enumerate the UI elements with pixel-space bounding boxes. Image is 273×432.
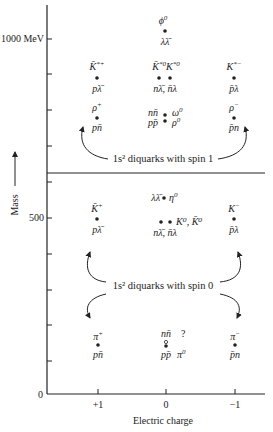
rho-minus-label: ρ−	[228, 101, 239, 113]
y-axis-label-group: Mass	[9, 194, 20, 215]
x-tick-minus1: −1	[230, 399, 241, 410]
k0-point	[159, 220, 163, 224]
kstar0-label: K̄*0K*0	[151, 60, 180, 72]
phi0-point	[163, 29, 167, 33]
k-plus-quark: pλ̄	[91, 224, 104, 235]
y-tick-0: 0	[38, 389, 43, 400]
x-axis-label: Electric charge	[133, 415, 194, 426]
kstar0-point	[168, 76, 172, 80]
kstar-plus-quark: pλ̄	[91, 83, 104, 94]
pi-plus-label: π+	[93, 330, 103, 342]
pi0-label: π0	[177, 348, 186, 360]
k0-label: K⁰, K̄⁰	[175, 216, 202, 227]
x-tick-plus1: +1	[93, 399, 104, 410]
pi0-open-point	[164, 340, 167, 343]
meson-mass-diagram: 1000 MeV 500 0 Mass +1 0 −1 Electric cha…	[0, 0, 273, 432]
spin1-note: 1s² diquarks with spin 1	[113, 153, 214, 164]
phi0-quark: λλ̄	[160, 36, 173, 47]
pi-plus-point	[96, 343, 100, 347]
lower-left-down-arrow-icon	[87, 294, 106, 318]
x-tick-0: 0	[164, 399, 169, 410]
kstar0-quark: nλ̄, n̄λ	[153, 83, 177, 94]
y-axis-label: Mass	[9, 194, 20, 215]
pi0-point	[164, 344, 168, 348]
pi-minus-label: π−	[230, 330, 240, 342]
k-plus-label: K̄+	[90, 202, 103, 214]
spin0-note: 1s² diquarks with spin 0	[113, 280, 214, 291]
phi0-label: ϕ0	[159, 14, 168, 26]
pi-plus-quark: pn̄	[92, 349, 103, 360]
k0bar-point	[168, 220, 172, 224]
kstar-minus-quark: p̄λ	[228, 83, 239, 94]
k0-quark: nλ̄, n̄λ	[153, 227, 177, 238]
kstar-minus-point	[232, 76, 236, 80]
lower-right-down-arrow-icon	[220, 294, 239, 318]
k-plus-point	[95, 217, 99, 221]
x-ticks	[98, 389, 235, 394]
y-ticks	[47, 39, 52, 361]
y-tick-1000: 1000 MeV	[1, 33, 45, 44]
rho0-point	[163, 119, 167, 123]
pi-minus-quark: p̄n	[229, 349, 240, 360]
k-minus-label: K−	[227, 202, 240, 214]
lower-right-up-arrow-icon	[220, 252, 241, 282]
rho0-label: ρ0	[171, 116, 181, 128]
k-minus-quark: p̄λ	[228, 224, 239, 235]
eta0-quark: λλ̄	[150, 192, 163, 203]
kstar-plus-label: K̄*+	[89, 60, 105, 72]
rho-minus-quark: p̄n	[228, 122, 239, 133]
rho-plus-quark: pn̄	[91, 122, 102, 133]
pi0-quark-bottom: pp̄	[160, 349, 171, 360]
kstar0bar-point	[157, 76, 161, 80]
omega0-point	[163, 113, 167, 117]
k-minus-point	[232, 217, 236, 221]
eta0-point	[162, 196, 166, 200]
kstar-plus-point	[95, 76, 99, 80]
pi-minus-point	[233, 343, 237, 347]
omega-rho0-quark-bottom: pp̄	[147, 117, 158, 128]
pi0-unknown-mark: ?	[181, 328, 186, 339]
rho-plus-label: ρ+	[91, 101, 102, 113]
kstar-minus-label: K*−	[226, 60, 242, 72]
y-tick-500: 500	[29, 212, 44, 223]
rho-minus-point	[232, 116, 236, 120]
pi0-quark-top: nn̄	[161, 328, 171, 339]
eta0-label: η0	[169, 191, 178, 203]
lower-left-up-arrow-icon	[87, 252, 106, 282]
rho-plus-point	[95, 116, 99, 120]
